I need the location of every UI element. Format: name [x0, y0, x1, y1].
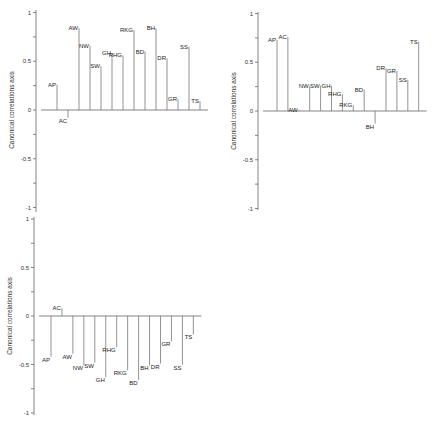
stem-label-rhg: RHG [102, 347, 116, 353]
stem-label-aw: AW [62, 354, 72, 360]
y-tick-label: -0.5 [19, 362, 30, 368]
stem-label-bd: BD [129, 380, 138, 386]
stem-label-nw: NW [73, 365, 83, 371]
stem-label-gr: GR [161, 341, 171, 347]
stem-label-bh: BH [140, 365, 148, 371]
stem-label-sw: SW [84, 363, 94, 369]
y-axis-label: Canonical correlations axis [6, 276, 13, 354]
stem-label-ap: AP [42, 357, 50, 363]
stem-chart-svg-3: 10.50-0.5-1Canonical correlations axisAP… [0, 0, 435, 424]
stem-label-ss: SS [173, 365, 181, 371]
stem-label-ts: TS [185, 334, 193, 340]
stem-label-ac: AC [53, 305, 62, 311]
stem-label-gh: GH [96, 377, 105, 383]
canonical-chart-bottom-left: 10.50-0.5-1Canonical correlations axisAP… [0, 0, 435, 424]
y-tick-label: 0 [26, 313, 30, 319]
y-tick-label: 1 [26, 216, 30, 222]
stem-label-rkg: RKG [114, 370, 127, 376]
y-tick-label: 0.5 [21, 265, 30, 271]
stem-label-dr: DR [151, 364, 160, 370]
y-tick-label: -1 [24, 410, 30, 416]
